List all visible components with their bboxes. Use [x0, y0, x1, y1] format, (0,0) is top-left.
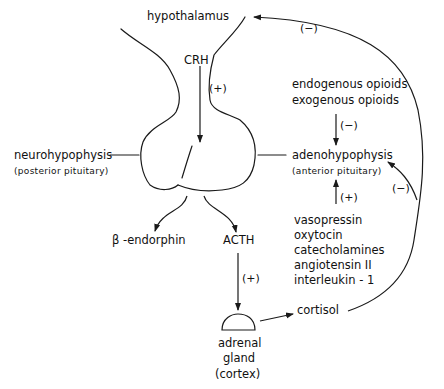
hpa-axis-diagram: hypothalamus CRH (+) (−) endogenous opio…: [0, 0, 444, 389]
opioid-sign: (−): [340, 119, 358, 132]
stimulator-oxytocin: oxytocin: [294, 228, 343, 242]
cortisol-adenohypophysis-sign: (−): [392, 182, 410, 195]
cortisol-hypothalamus-sign: (−): [300, 22, 318, 35]
crh-sign: (+): [209, 82, 227, 95]
adenohypophysis-sublabel: (anterior pituitary): [292, 166, 382, 176]
cortisol-label: cortisol: [297, 303, 339, 317]
adrenal-gland-shape: [222, 314, 255, 330]
stimulator-sign: (+): [340, 191, 358, 204]
crh-label: CRH: [184, 53, 209, 67]
stimulator-catecholamines: catecholamines: [294, 243, 385, 257]
adrenal-label-line1: adrenal: [218, 336, 261, 350]
stimulator-vasopressin: vasopressin: [294, 213, 362, 227]
stimulator-interleukin: interleukin - 1: [294, 273, 374, 287]
beta-endorphin-arrow: [155, 196, 187, 231]
acth-sign: (+): [242, 272, 260, 285]
neurohypophysis-label: neurohypophysis: [14, 148, 112, 162]
inhibitor-exogenous-opioids: exogenous opioids: [292, 93, 399, 107]
beta-endorphin-label: β -endorphin: [112, 233, 186, 247]
adrenal-label-line3: (cortex): [215, 367, 260, 381]
acth-arrow: [204, 196, 236, 232]
inhibitor-endogenous-opioids: endogenous opioids: [292, 77, 407, 91]
pituitary-outline: [121, 17, 255, 191]
neurohypophysis-sublabel: (posterior pituitary): [14, 166, 109, 176]
stimulator-angiotensin: angiotensin II: [294, 258, 372, 272]
hypothalamus-label: hypothalamus: [147, 9, 229, 23]
adenohypophysis-label: adenohypophysis: [292, 148, 393, 162]
acth-label: ACTH: [223, 233, 254, 247]
adrenal-label-line2: gland: [223, 351, 255, 365]
adrenal-to-cortisol-arrow: [260, 314, 293, 321]
